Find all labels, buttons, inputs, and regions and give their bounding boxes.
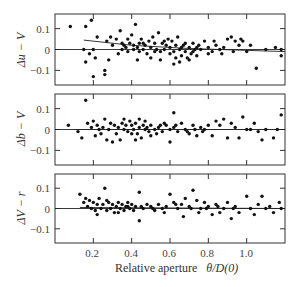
data-point [172,50,175,53]
data-point [90,126,93,129]
data-point [195,54,198,57]
data-point [245,128,248,131]
data-point [264,48,267,51]
data-point [159,58,162,61]
y-tick-label: 0.1 [36,182,50,194]
data-point [94,56,97,59]
y-axis-label-middle: Δb − V [14,110,28,147]
data-point [142,42,145,45]
data-point [191,50,194,53]
data-point [82,201,85,204]
data-point [237,211,240,214]
data-point [136,46,139,49]
x-tick-labels: 0.2 0.4 0.6 0.8 1.0 [85,247,253,259]
data-point [184,50,187,53]
data-point [264,207,267,210]
y-tick-label: 0 [45,203,51,215]
data-point [124,124,127,127]
data-point [103,69,106,72]
data-point [172,62,175,65]
data-point [132,48,135,51]
data-point [232,50,235,53]
data-point [274,46,277,49]
data-point [103,73,106,76]
data-point [80,136,83,139]
data-point [168,128,171,131]
data-point [122,128,125,131]
data-point [211,50,214,53]
y-axis-label-bottom: ΔV − r [14,191,28,225]
data-point [188,58,191,61]
data-point [191,42,194,45]
data-point [172,111,175,114]
data-point [176,130,179,133]
data-point [234,39,237,42]
data-point [166,37,169,40]
data-point [120,48,123,51]
data-point [201,130,204,133]
y-tick-label: 0 [45,44,51,56]
data-point [126,50,129,53]
data-point [149,134,152,137]
data-point [115,205,118,208]
data-point [145,52,148,55]
data-point [109,35,112,38]
y-tick-label: 0.1 [36,23,50,35]
data-point [86,122,89,125]
panel-top: 0.10−0.1 [30,14,285,85]
data-point [157,31,160,34]
data-point [119,207,122,210]
data-point [157,203,160,206]
data-point [272,136,275,139]
data-point [180,203,183,206]
data-point [136,132,139,135]
data-point [188,46,191,49]
data-point [203,201,206,204]
data-point [111,203,114,206]
data-point [84,60,87,63]
data-point [168,140,171,143]
data-point [264,128,267,131]
data-point [142,48,145,51]
data-point [140,136,143,139]
data-point [230,122,233,125]
data-point [88,199,91,202]
data-point [163,39,166,42]
data-point [130,203,133,206]
data-point [278,201,281,204]
y-tick-label: 0.1 [36,103,50,115]
data-point [199,48,202,51]
data-point [216,205,219,208]
data-point [115,37,118,40]
y-tick-label: −0.1 [30,223,50,235]
data-point [163,48,166,51]
data-point [260,195,263,198]
data-point [143,119,146,122]
data-point [257,203,260,206]
data-point [107,58,110,61]
data-point [203,39,206,42]
data-point [276,128,279,131]
data-point [249,44,252,47]
data-point [153,128,156,131]
data-point [272,211,275,214]
data-point [134,122,137,125]
data-point [99,132,102,135]
data-point [111,44,114,47]
data-point [168,52,171,55]
data-point [214,119,217,122]
data-point [239,37,242,40]
data-point [174,56,177,59]
data-point [69,25,72,28]
data-point [105,209,108,212]
data-point [174,44,177,47]
data-point [138,191,141,194]
data-point [245,50,248,53]
data-point [101,126,104,129]
x-tick-label: 0.8 [200,247,214,259]
data-point [109,122,112,125]
data-point [241,115,244,118]
data-point [101,203,104,206]
data-point [211,213,214,216]
data-point [189,207,192,210]
